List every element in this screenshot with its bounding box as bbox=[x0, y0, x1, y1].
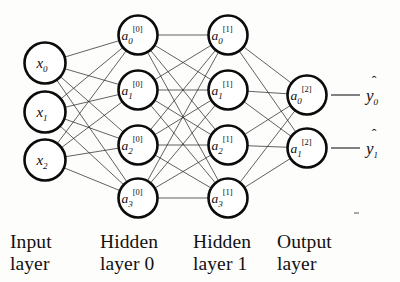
neuron-label-subscript: 0 bbox=[297, 96, 302, 106]
layer-caption-hidden1: Hidden layer 1 bbox=[193, 231, 251, 275]
neuron-label-superscript: [0] bbox=[133, 79, 143, 89]
layer-caption-hidden0: Hidden layer 0 bbox=[100, 231, 158, 275]
output-label-base: y bbox=[364, 139, 374, 158]
connection-edge bbox=[244, 47, 292, 83]
neuron-label-subscript: 2 bbox=[218, 146, 223, 156]
neuron-label-subscript: 1 bbox=[297, 149, 302, 159]
neuron-label-subscript: 2 bbox=[43, 161, 48, 171]
neuron-label-superscript: [1] bbox=[223, 24, 233, 34]
output-label-subscript: 1 bbox=[374, 150, 379, 160]
neuron-label-subscript: 3 bbox=[127, 199, 133, 209]
neuron-label-superscript: [0] bbox=[133, 187, 143, 197]
neuron-hidden0-3: a3[0] bbox=[119, 179, 158, 218]
connection-edge bbox=[244, 102, 292, 137]
neuron-hidden0-2: a2[0] bbox=[119, 126, 158, 165]
output-labels: ˆy0ˆy1 bbox=[364, 74, 379, 160]
output-label-0: ˆy0 bbox=[364, 74, 379, 107]
neuron-label-superscript: [1] bbox=[223, 79, 233, 89]
connection-edge bbox=[244, 158, 290, 187]
neuron-label-superscript: [1] bbox=[223, 187, 233, 197]
neuron-hidden0-1: a1[0] bbox=[119, 71, 158, 110]
neuron-label-subscript: 1 bbox=[43, 113, 48, 123]
neuron-label-superscript: [0] bbox=[133, 134, 143, 144]
output-label-subscript: 0 bbox=[374, 97, 379, 107]
neuron-label-superscript: [2] bbox=[302, 84, 312, 94]
neuron-circle bbox=[25, 43, 66, 84]
neuron-hidden0-0: a0[0] bbox=[119, 16, 158, 55]
scan-speck bbox=[354, 212, 359, 214]
output-label-base: y bbox=[364, 86, 374, 105]
neuron-input-2: x2 bbox=[25, 140, 66, 181]
neuron-hidden1-3: a3[1] bbox=[209, 179, 248, 218]
output-arrow-stubs bbox=[331, 95, 360, 148]
connection-edge bbox=[60, 77, 123, 133]
neural-network-figure: x0x1x2a0[0]a1[0]a2[0]a3[0]a0[1]a1[1]a2[1… bbox=[0, 0, 400, 282]
neuron-label-subscript: 1 bbox=[128, 91, 133, 101]
connection-edge bbox=[64, 168, 120, 191]
neuron-label-subscript: 2 bbox=[128, 146, 133, 156]
neuron-label-subscript: 0 bbox=[218, 36, 223, 46]
connection-edge bbox=[60, 126, 124, 185]
neuron-output-0: a0[2] bbox=[288, 76, 327, 115]
layer-caption-output: Output layer bbox=[277, 231, 332, 275]
neuron-input-1: x1 bbox=[25, 92, 66, 133]
neuron-output-1: a1[2] bbox=[288, 129, 327, 168]
output-label-text: y0 bbox=[364, 86, 379, 107]
neuron-label-subscript: 0 bbox=[128, 36, 133, 46]
connection-edge bbox=[61, 102, 122, 148]
layer-caption-input: Input layer bbox=[10, 231, 52, 275]
neuron-hidden1-1: a1[1] bbox=[209, 71, 248, 110]
neuron-label-subscript: 0 bbox=[43, 64, 48, 74]
connection-edge bbox=[244, 105, 290, 134]
neuron-hidden1-2: a2[1] bbox=[209, 126, 248, 165]
neuron-nodes: x0x1x2a0[0]a1[0]a2[0]a3[0]a0[1]a1[1]a2[1… bbox=[25, 16, 327, 218]
connection-edge bbox=[57, 51, 126, 144]
neuron-circle bbox=[25, 140, 66, 181]
connection-edge bbox=[65, 41, 120, 57]
neuron-label-subscript: 1 bbox=[218, 91, 223, 101]
neuron-hidden1-0: a0[1] bbox=[209, 16, 248, 55]
neuron-circle bbox=[25, 92, 66, 133]
connection-edges bbox=[57, 35, 296, 198]
output-label-text: y1 bbox=[364, 139, 378, 160]
output-label-1: ˆy1 bbox=[364, 127, 378, 160]
neuron-label-superscript: [1] bbox=[223, 134, 233, 144]
neuron-label-subscript: 3 bbox=[217, 199, 223, 209]
neuron-label-superscript: [0] bbox=[133, 24, 143, 34]
neuron-label-superscript: [2] bbox=[302, 137, 312, 147]
neuron-input-0: x0 bbox=[25, 43, 66, 84]
